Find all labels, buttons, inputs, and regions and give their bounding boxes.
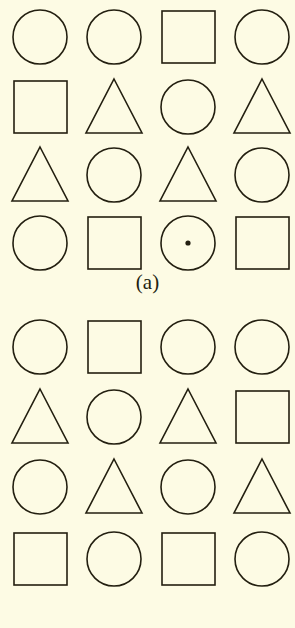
square-outline xyxy=(162,533,215,585)
square-outline xyxy=(88,217,141,269)
shape-a-r2c3-circle[interactable] xyxy=(159,76,219,138)
shape-b-r4c2-circle[interactable] xyxy=(85,528,145,590)
shape-a-r4c3-circle-marked[interactable] xyxy=(159,212,219,274)
shape-a-r2c2-triangle[interactable] xyxy=(85,76,145,138)
shape-a-r3c1-triangle[interactable] xyxy=(11,144,71,206)
shape-a-r3c2-circle[interactable] xyxy=(85,144,145,206)
circle-outline xyxy=(235,10,289,64)
panel-a: (a) xyxy=(0,0,295,300)
shape-b-r3c1-circle[interactable] xyxy=(11,456,71,518)
square-outline xyxy=(14,533,67,585)
shape-grid-a xyxy=(0,0,295,268)
circle-outline xyxy=(13,216,67,270)
square-outline xyxy=(162,11,215,63)
shape-a-r1c1-circle[interactable] xyxy=(11,6,71,68)
shape-b-r3c3-circle[interactable] xyxy=(159,456,219,518)
triangle-outline xyxy=(12,389,68,443)
shape-a-r2c1-square[interactable] xyxy=(11,76,71,138)
figure-root: (a) (b) xyxy=(0,0,295,628)
square-outline xyxy=(14,81,67,133)
shape-a-r4c1-circle[interactable] xyxy=(11,212,71,274)
shape-b-r4c3-square[interactable] xyxy=(159,528,219,590)
shape-b-r1c1-circle[interactable] xyxy=(11,316,71,378)
shape-b-r2c4-square[interactable] xyxy=(233,386,293,448)
shape-a-r1c4-circle[interactable] xyxy=(233,6,293,68)
shape-b-r2c1-triangle[interactable] xyxy=(11,386,71,448)
shape-a-r4c2-square[interactable] xyxy=(85,212,145,274)
shape-a-r3c3-triangle[interactable] xyxy=(159,144,219,206)
shape-a-r3c4-circle[interactable] xyxy=(233,144,293,206)
circle-outline xyxy=(13,320,67,374)
shape-b-r1c4-circle[interactable] xyxy=(233,316,293,378)
shape-b-r1c2-square[interactable] xyxy=(85,316,145,378)
circle-outline xyxy=(87,532,141,586)
shape-grid-b xyxy=(0,310,295,596)
shape-b-r4c1-square[interactable] xyxy=(11,528,71,590)
triangle-outline xyxy=(234,79,290,133)
triangle-outline xyxy=(12,147,68,201)
circle-outline xyxy=(235,320,289,374)
circle-outline xyxy=(235,148,289,202)
shape-b-r2c3-triangle[interactable] xyxy=(159,386,219,448)
shape-b-r1c3-circle[interactable] xyxy=(159,316,219,378)
shape-a-r2c4-triangle[interactable] xyxy=(233,76,293,138)
circle-outline xyxy=(13,460,67,514)
shape-b-r3c4-triangle[interactable] xyxy=(233,456,293,518)
circle-outline xyxy=(13,10,67,64)
panel-b: (b) xyxy=(0,310,295,628)
triangle-outline xyxy=(160,389,216,443)
circle-outline xyxy=(235,532,289,586)
circle-outline xyxy=(161,460,215,514)
shape-b-r4c4-circle[interactable] xyxy=(233,528,293,590)
circle-outline xyxy=(87,390,141,444)
shape-b-r2c2-circle[interactable] xyxy=(85,386,145,448)
triangle-outline xyxy=(160,147,216,201)
shape-a-r1c3-square[interactable] xyxy=(159,6,219,68)
circle-outline xyxy=(161,80,215,134)
shape-a-r1c2-circle[interactable] xyxy=(85,6,145,68)
center-dot-marker xyxy=(185,240,190,245)
circle-outline xyxy=(87,148,141,202)
square-outline xyxy=(236,391,289,443)
circle-outline xyxy=(161,320,215,374)
panel-a-label: (a) xyxy=(0,272,295,293)
triangle-outline xyxy=(86,79,142,133)
circle-outline xyxy=(87,10,141,64)
shape-a-r4c4-square[interactable] xyxy=(233,212,293,274)
shape-b-r3c2-triangle[interactable] xyxy=(85,456,145,518)
triangle-outline xyxy=(86,459,142,513)
square-outline xyxy=(236,217,289,269)
triangle-outline xyxy=(234,459,290,513)
square-outline xyxy=(88,321,141,373)
